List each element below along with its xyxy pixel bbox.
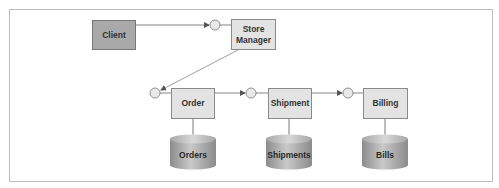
order-label: Order <box>181 98 205 108</box>
billing-interface-icon <box>343 88 353 98</box>
store-manager-interface-icon <box>210 20 220 30</box>
shipments-db-label: Shipments <box>267 150 311 160</box>
billing-label: Billing <box>373 98 399 108</box>
shipments-database-icon: Shipments <box>266 135 312 170</box>
store-manager-label-line2: Manager <box>236 35 272 45</box>
store-manager-node: Store Manager <box>232 20 276 50</box>
orders-db-label: Orders <box>179 150 207 160</box>
order-interface-icon <box>150 88 160 98</box>
billing-node: Billing <box>364 89 408 119</box>
shipment-interface-icon <box>246 88 256 98</box>
store-manager-label-line1: Store <box>243 24 265 34</box>
bills-db-label: Bills <box>376 150 394 160</box>
shipment-label: Shipment <box>271 98 310 108</box>
orders-database-icon: Orders <box>170 135 216 170</box>
bills-database-icon: Bills <box>362 135 408 170</box>
client-node: Client <box>93 21 136 50</box>
order-node: Order <box>172 89 215 119</box>
shipment-node: Shipment <box>269 89 312 119</box>
architecture-diagram: Client Store Manager Order Shipment Bill… <box>0 0 499 188</box>
client-label: Client <box>102 30 126 40</box>
